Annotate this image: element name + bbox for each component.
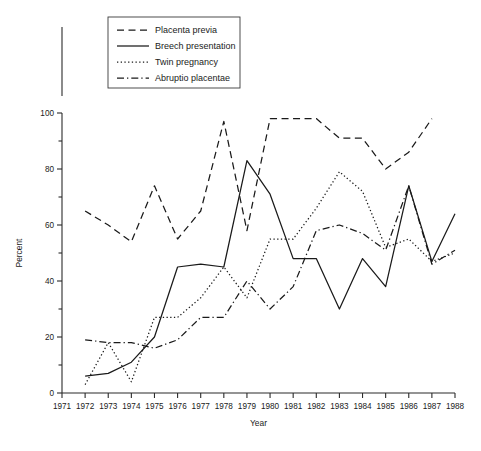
- x-tick-label: 1982: [307, 402, 326, 411]
- series-line-breech-presentation: [85, 161, 455, 377]
- x-tick-label: 1987: [423, 402, 442, 411]
- line-chart: 020406080100Percent197119721973197419751…: [0, 0, 481, 451]
- x-tick-label: 1975: [145, 402, 164, 411]
- x-tick-label: 1984: [353, 402, 372, 411]
- y-tick-label: 60: [45, 221, 55, 230]
- x-tick-label: 1971: [53, 402, 72, 411]
- legend-label: Placenta previa: [155, 25, 217, 35]
- x-tick-label: 1983: [330, 402, 349, 411]
- series-line-abruptio-placentae: [85, 186, 455, 348]
- y-tick-label: 80: [45, 165, 55, 174]
- x-tick-label: 1986: [400, 402, 419, 411]
- legend-label: Breech presentation: [155, 41, 236, 51]
- x-tick-label: 1979: [238, 402, 257, 411]
- x-tick-label: 1980: [261, 402, 280, 411]
- y-tick-label: 0: [49, 389, 54, 398]
- y-tick-label: 100: [40, 109, 54, 118]
- y-axis-label: Percent: [14, 238, 24, 268]
- x-tick-label: 1972: [76, 402, 95, 411]
- x-tick-label: 1974: [122, 402, 141, 411]
- legend-label: Twin pregnancy: [155, 57, 219, 67]
- x-axis-label: Year: [250, 418, 267, 428]
- x-tick-label: 1988: [446, 402, 465, 411]
- chart-figure: 020406080100Percent197119721973197419751…: [0, 0, 481, 451]
- x-tick-label: 1985: [377, 402, 396, 411]
- x-tick-label: 1976: [168, 402, 187, 411]
- x-tick-label: 1978: [215, 402, 234, 411]
- series-line-placenta-previa: [85, 119, 432, 242]
- y-tick-label: 20: [45, 333, 55, 342]
- y-tick-label: 40: [45, 277, 55, 286]
- x-tick-label: 1973: [99, 402, 118, 411]
- x-tick-label: 1981: [284, 402, 303, 411]
- legend-label: Abruptio placentae: [155, 73, 230, 83]
- x-tick-label: 1977: [192, 402, 211, 411]
